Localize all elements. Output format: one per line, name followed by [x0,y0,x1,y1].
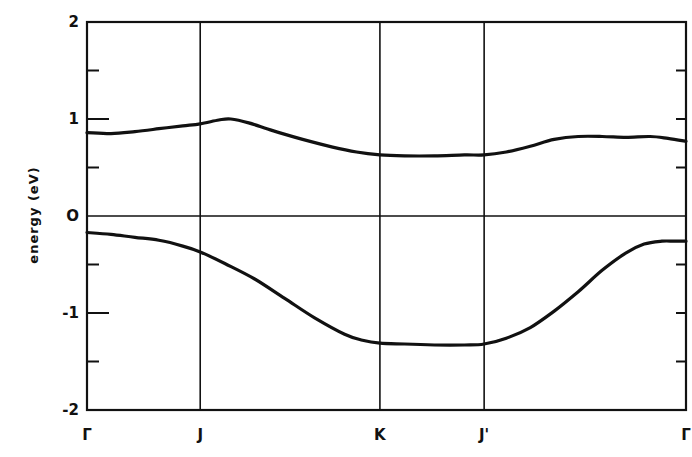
y-tick-label: -2 [62,401,79,419]
y-axis-title: energy (eV) [26,166,41,263]
bands [87,119,686,345]
y-tick-label: 1 [69,110,79,128]
k-point-label: Γ [82,426,92,444]
y-tick-label: -1 [62,304,79,322]
k-point-label: J [196,426,203,444]
band-structure-chart: -2-1O12ΓJKJ'Γ energy (eV) [0,0,692,457]
k-point-label: Γ [681,426,691,444]
upper-band-line [87,119,686,156]
grid-layer [87,22,686,410]
k-point-label: K [374,426,387,444]
lower-band-line [87,233,686,346]
k-point-label: J' [478,426,489,444]
y-tick-label: 2 [69,13,79,31]
labels: -2-1O12ΓJKJ'Γ [62,13,691,444]
y-tick-label: O [66,207,79,225]
